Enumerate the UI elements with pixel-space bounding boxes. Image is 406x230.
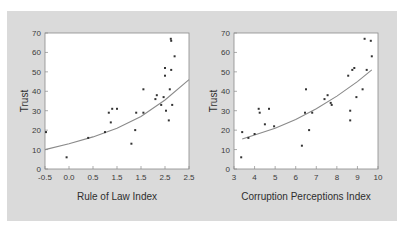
y-tick-label: 40 [32, 87, 41, 96]
data-point [108, 112, 110, 114]
data-point [66, 156, 68, 158]
y-axis-label: Trust [19, 90, 30, 113]
x-axis-label: Rule of Law Index [77, 191, 157, 202]
y-tick-label: 30 [221, 107, 230, 116]
y-tick-label: 10 [32, 146, 41, 155]
x-tick-label: 8 [335, 173, 340, 182]
data-point [87, 137, 89, 139]
x-tick-label: 1.5 [111, 173, 123, 182]
data-point [154, 98, 156, 100]
data-point [308, 129, 310, 131]
data-point [301, 145, 303, 147]
y-axis-label: Trust [208, 90, 219, 113]
data-point [349, 119, 351, 121]
data-point [168, 119, 170, 121]
x-tick-label: 2.5 [159, 173, 171, 182]
data-point [164, 67, 166, 69]
y-tick-label: 0 [226, 165, 231, 174]
data-point [347, 75, 349, 77]
data-point [324, 98, 326, 100]
x-tick-label: 5 [273, 173, 278, 182]
data-point [258, 108, 260, 110]
x-tick-label: 10 [374, 173, 383, 182]
data-point [111, 108, 113, 110]
data-point [165, 110, 167, 112]
data-point [371, 55, 373, 57]
data-point [311, 112, 313, 114]
data-point [240, 156, 242, 158]
y-tick-label: 70 [221, 29, 230, 38]
data-point [264, 123, 266, 125]
y-tick-label: 50 [221, 68, 230, 77]
x-tick-label: 6 [293, 173, 298, 182]
data-point [160, 104, 162, 106]
x-tick-label: 4 [252, 173, 257, 182]
data-point [104, 131, 106, 133]
figure: 010203040506070 -0.50.00.51.51.52.52.5 R… [0, 0, 406, 230]
x-tick-label: 2.5 [183, 173, 195, 182]
x-tick-label: -0.5 [38, 173, 52, 182]
y-tick-label: 30 [32, 107, 41, 116]
y-tick-label: 10 [221, 146, 230, 155]
data-point [370, 40, 372, 42]
y-tick-label: 20 [221, 126, 230, 135]
data-point [142, 112, 144, 114]
x-tick-label: 0.5 [87, 173, 99, 182]
data-point [134, 129, 136, 131]
data-point [330, 102, 332, 104]
data-point [349, 110, 351, 112]
x-tick-label: 0.0 [63, 173, 75, 182]
data-point [163, 96, 165, 98]
data-point [171, 104, 173, 106]
data-point [110, 121, 112, 123]
data-point [169, 88, 171, 90]
data-point [116, 108, 118, 110]
data-point [353, 67, 355, 69]
data-point [170, 69, 172, 71]
data-point [254, 133, 256, 135]
data-point [327, 94, 329, 96]
data-point [259, 112, 261, 114]
y-tick-label: 60 [221, 48, 230, 57]
data-point [305, 88, 307, 90]
data-point [241, 131, 243, 133]
y-tick-label: 20 [32, 126, 41, 135]
data-point [273, 125, 275, 127]
data-point [355, 96, 357, 98]
plot-area [45, 33, 189, 169]
data-point [170, 38, 172, 40]
data-point [156, 94, 158, 96]
data-point [247, 137, 249, 139]
data-point [331, 104, 333, 106]
data-point [164, 75, 166, 77]
y-tick-label: 40 [221, 87, 230, 96]
plot-area [234, 33, 378, 169]
x-tick-label: 1.5 [135, 173, 147, 182]
x-tick-label: 9 [355, 173, 360, 182]
x-tick-label: 7 [314, 173, 319, 182]
x-tick-label: 3 [232, 173, 237, 182]
y-tick-label: 70 [32, 29, 41, 38]
y-tick-label: 60 [32, 48, 41, 57]
data-point [351, 69, 353, 71]
data-point [135, 112, 137, 114]
data-point [45, 131, 47, 133]
data-point [364, 38, 366, 40]
data-point [304, 112, 306, 114]
chart-corruption-perceptions: 010203040506070 345678910 Corruption Per… [208, 29, 383, 202]
y-tick-label: 50 [32, 68, 41, 77]
chart-rule-of-law: 010203040506070 -0.50.00.51.51.52.52.5 R… [19, 29, 195, 202]
data-point [174, 55, 176, 57]
data-point [268, 108, 270, 110]
data-point [362, 88, 364, 90]
data-point [170, 40, 172, 42]
data-point [130, 143, 132, 145]
data-point [142, 88, 144, 90]
data-point [366, 69, 368, 71]
x-axis-label: Corruption Perceptions Index [241, 191, 371, 202]
